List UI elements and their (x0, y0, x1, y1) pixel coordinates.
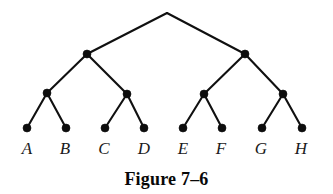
tree-edge (47, 93, 66, 128)
leaf-label-h: H (288, 140, 314, 157)
tree-node (218, 124, 226, 132)
tree-edge (87, 13, 167, 54)
tree-edge (245, 54, 283, 94)
tree-edge (204, 94, 222, 128)
leaf-label-g: G (248, 140, 274, 157)
leaf-label-b: B (52, 140, 78, 157)
tree-node (83, 50, 91, 58)
tree-nodes-group (23, 50, 306, 132)
tree-edge (204, 54, 245, 94)
tree-edge (183, 94, 204, 128)
tree-edge (262, 94, 283, 128)
tree-node (179, 124, 187, 132)
tree-edges-group (27, 13, 302, 128)
binary-tree-graphic (0, 0, 333, 194)
tree-node (200, 90, 208, 98)
leaf-label-c: C (91, 140, 117, 157)
leaf-label-e: E (170, 140, 196, 157)
tree-edge (167, 13, 245, 54)
figure-caption: Figure 7–6 (0, 168, 333, 190)
tree-node (43, 89, 51, 97)
leaf-label-a: A (14, 140, 40, 157)
tree-edge (105, 94, 127, 128)
tree-node (241, 50, 249, 58)
tree-edge (283, 94, 302, 128)
tree-node (123, 90, 131, 98)
tree-node (62, 124, 70, 132)
tree-node (140, 124, 148, 132)
tree-edge (47, 54, 87, 93)
tree-node (101, 124, 109, 132)
tree-edge (87, 54, 127, 94)
leaf-label-f: F (208, 140, 234, 157)
tree-node (23, 124, 31, 132)
tree-edge (127, 94, 144, 128)
leaf-label-d: D (131, 140, 157, 157)
tree-node (298, 124, 306, 132)
tree-edge (27, 93, 47, 128)
tree-node (279, 90, 287, 98)
tree-node (258, 124, 266, 132)
figure-container: ABCDEFGH Figure 7–6 (0, 0, 333, 194)
